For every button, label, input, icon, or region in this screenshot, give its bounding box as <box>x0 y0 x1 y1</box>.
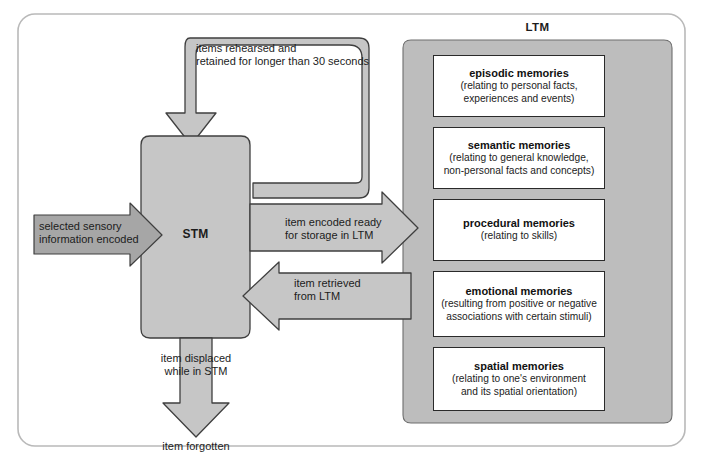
memory-box-episodic: episodic memories (relating to personal … <box>433 55 605 117</box>
memory-box-title: spatial memories <box>474 360 564 372</box>
item-displaced-label: item displaced while in STM <box>131 352 261 379</box>
memory-box-spatial: spatial memories (relating to one's envi… <box>433 347 605 411</box>
retrieved-from-ltm-label: item retrieved from LTM <box>294 277 404 304</box>
memory-box-desc: (relating to one's environment and its s… <box>452 373 586 399</box>
memory-box-desc: (relating to skills) <box>481 230 557 243</box>
memory-box-desc: (relating to personal facts, experiences… <box>460 80 577 106</box>
memory-box-title: semantic memories <box>468 139 571 151</box>
memory-box-title: procedural memories <box>463 217 575 229</box>
sensory-input-label: selected sensory information encoded <box>39 220 139 247</box>
memory-box-emotional: emotional memories (resulting from posit… <box>433 271 605 337</box>
diagram-canvas: LTM STM items rehearsed and retained for… <box>0 0 703 460</box>
ltm-title: LTM <box>403 20 672 34</box>
item-forgotten-label: item forgotten <box>131 440 261 453</box>
memory-box-desc: (resulting from positive or negative ass… <box>441 298 597 324</box>
memory-box-semantic: semantic memories (relating to general k… <box>433 127 605 189</box>
encoded-to-ltm-label: item encoded ready for storage in LTM <box>285 216 410 243</box>
stm-title: STM <box>141 227 250 242</box>
memory-box-desc: (relating to general knowledge, non-pers… <box>444 152 595 178</box>
rehearsal-label: items rehearsed and retained for longer … <box>196 42 376 69</box>
memory-box-title: episodic memories <box>469 67 569 79</box>
memory-box-procedural: procedural memories (relating to skills) <box>433 199 605 261</box>
memory-box-title: emotional memories <box>466 285 573 297</box>
